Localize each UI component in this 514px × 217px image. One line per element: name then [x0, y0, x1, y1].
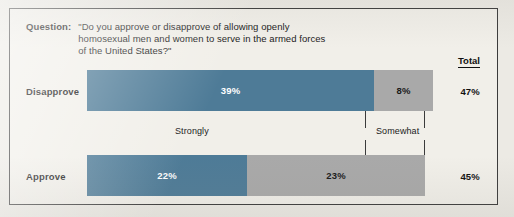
row-label-approve: Approve — [26, 170, 66, 181]
stacked-bar-disapprove: 39% 8% — [87, 70, 433, 111]
question-label: Question: — [26, 21, 71, 32]
annotation-strongly: Strongly — [175, 126, 209, 136]
bar-segment-approve-strongly: 22% — [87, 155, 247, 196]
total-column-header: Total — [458, 55, 480, 68]
leader-line-somewhat-lower — [424, 140, 425, 156]
bar-row-approve: Approve 22% 23% 45% — [10, 155, 497, 196]
row-total-approve: 45% — [460, 170, 480, 181]
stacked-bar-approve: 22% 23% — [87, 155, 425, 196]
bar-segment-disapprove-somewhat: 8% — [374, 70, 433, 111]
leader-line-strongly-lower — [365, 140, 366, 156]
question-text: "Do you approve or disapprove of allowin… — [78, 21, 325, 58]
row-total-disapprove: 47% — [460, 85, 480, 96]
question-block: Question: "Do you approve or disapprove … — [26, 21, 325, 58]
annotation-somewhat: Somewhat — [376, 126, 419, 136]
leader-line-strongly-upper — [365, 111, 366, 128]
poll-bar-chart: Question: "Do you approve or disapprove … — [0, 0, 514, 217]
bar-segment-disapprove-strongly: 39% — [87, 70, 374, 111]
chart-frame: Question: "Do you approve or disapprove … — [9, 8, 498, 205]
bar-row-disapprove: Disapprove 39% 8% 47% — [10, 70, 497, 111]
bar-segment-approve-somewhat: 23% — [247, 155, 425, 196]
row-label-disapprove: Disapprove — [26, 85, 79, 96]
leader-line-somewhat-upper — [424, 111, 425, 128]
